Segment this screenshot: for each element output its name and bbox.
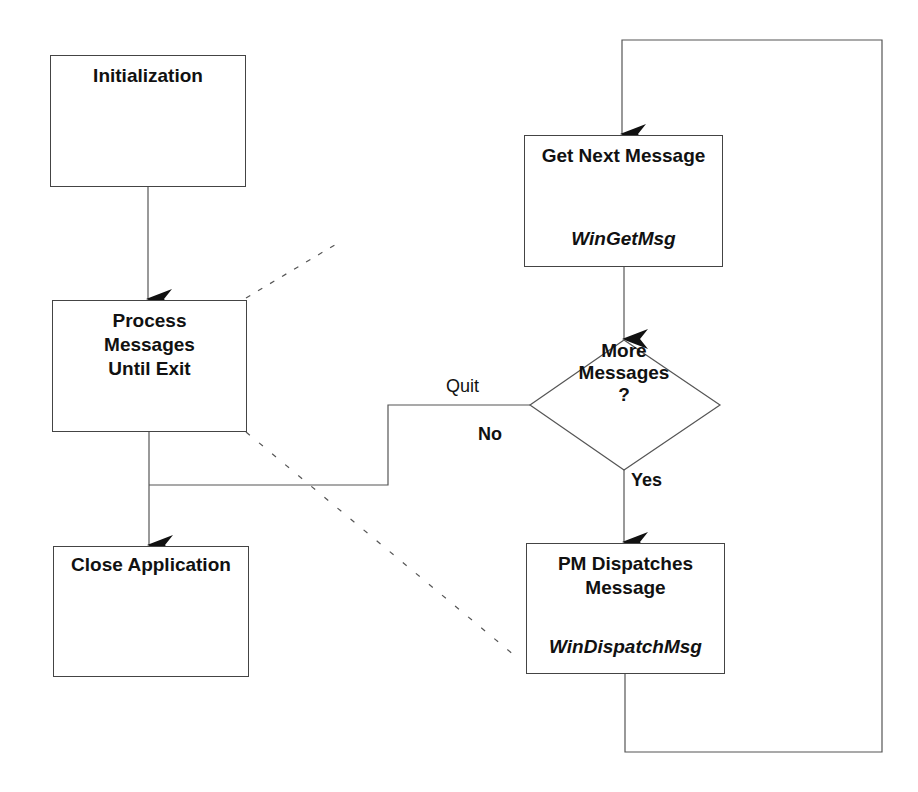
windispatchmsg-label: WinDispatchMsg (527, 636, 724, 658)
decision-label: More Messages ? (529, 340, 719, 406)
initialization-box: Initialization (50, 55, 246, 187)
no-edge-label: No (478, 424, 502, 445)
pm-dispatches-box: PM Dispatches Message WinDispatchMsg (526, 543, 725, 674)
close-application-box: Close Application (53, 546, 249, 677)
get-next-message-box: Get Next Message WinGetMsg (524, 135, 723, 267)
wingetmsg-label: WinGetMsg (525, 228, 722, 250)
process-messages-box: Process Messages Until Exit (52, 300, 247, 432)
close-application-label: Close Application (54, 553, 248, 577)
quit-edge-label: Quit (446, 376, 479, 397)
yes-edge-label: Yes (631, 470, 662, 491)
initialization-label: Initialization (51, 64, 245, 88)
get-next-message-label: Get Next Message (525, 144, 722, 168)
process-messages-label: Process Messages Until Exit (53, 309, 246, 381)
pm-dispatches-label: PM Dispatches Message (527, 552, 724, 600)
